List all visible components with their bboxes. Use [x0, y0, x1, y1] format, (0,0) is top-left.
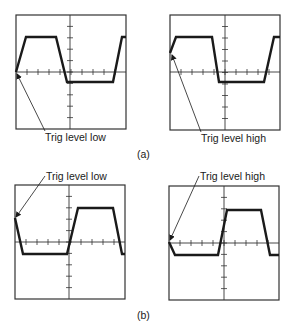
panel-a-caption: (a): [137, 149, 150, 160]
scope-a2-trigger-label: Trig level high: [201, 133, 266, 144]
trigger-pointer-arrow: [172, 55, 201, 132]
panel-b-caption: (b): [137, 310, 150, 321]
scope-b2-trigger-label: Trig level high: [200, 171, 265, 182]
oscilloscope-screen-b1: [15, 176, 125, 299]
trapezoidal-waveform: [16, 37, 126, 82]
scope-a1-trigger-label: Trig level low: [45, 132, 106, 143]
trigger-pointer-arrow: [17, 74, 45, 131]
oscilloscope-screen-a2: [170, 15, 280, 132]
oscilloscope-trigger-diagram: [0, 0, 289, 331]
trigger-pointer-arrow: [16, 176, 45, 217]
scope-b1-trigger-label: Trig level low: [46, 171, 107, 182]
oscilloscope-screen-a1: [16, 15, 126, 131]
oscilloscope-screen-b2: [169, 176, 279, 300]
